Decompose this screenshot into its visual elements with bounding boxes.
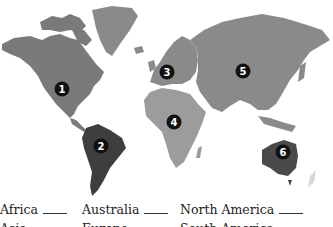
legend-item-asia: Asia [0,221,56,227]
answer-blank[interactable] [279,224,303,227]
answer-blank[interactable] [144,205,168,214]
world-map-svg [0,0,333,200]
world-map [0,0,333,200]
marker-2: 2 [94,139,109,154]
region-europe [150,36,198,86]
legend-item-south-america: South America [180,221,303,227]
legend-label: Asia [0,221,27,227]
region-central-america [70,118,86,132]
legend-row-1: Africa Australia North America [0,202,333,218]
answer-blank[interactable] [133,224,157,227]
region-southeast-asia [258,116,296,132]
legend-item-africa: Africa [0,202,67,217]
legend-label: North America [180,202,274,217]
answer-blank[interactable] [32,224,56,227]
marker-1: 1 [55,82,70,97]
region-arctic-islands [40,14,86,32]
marker-5: 5 [236,64,251,79]
legend-row-2: Asia Europe South America [0,221,333,227]
region-south-america [82,124,126,196]
region-madagascar [196,146,202,158]
legend-label: Australia [82,202,139,217]
region-north-america [2,34,104,118]
region-tasmania [288,180,292,186]
marker-3: 3 [160,65,175,80]
legend-item-australia: Australia [82,202,168,217]
region-new-zealand [308,170,316,188]
answer-blank[interactable] [279,205,303,214]
marker-6: 6 [276,145,291,160]
region-greenland [92,6,138,56]
answer-blank[interactable] [43,205,67,214]
legend-label: Europe [82,221,128,227]
marker-4: 4 [167,115,182,130]
legend-label: Africa [0,202,38,217]
region-asia [190,14,330,112]
legend-item-north-america: North America [180,202,303,217]
region-iceland [134,46,144,54]
legend-item-europe: Europe [82,221,157,227]
legend-label: South America [180,221,274,227]
